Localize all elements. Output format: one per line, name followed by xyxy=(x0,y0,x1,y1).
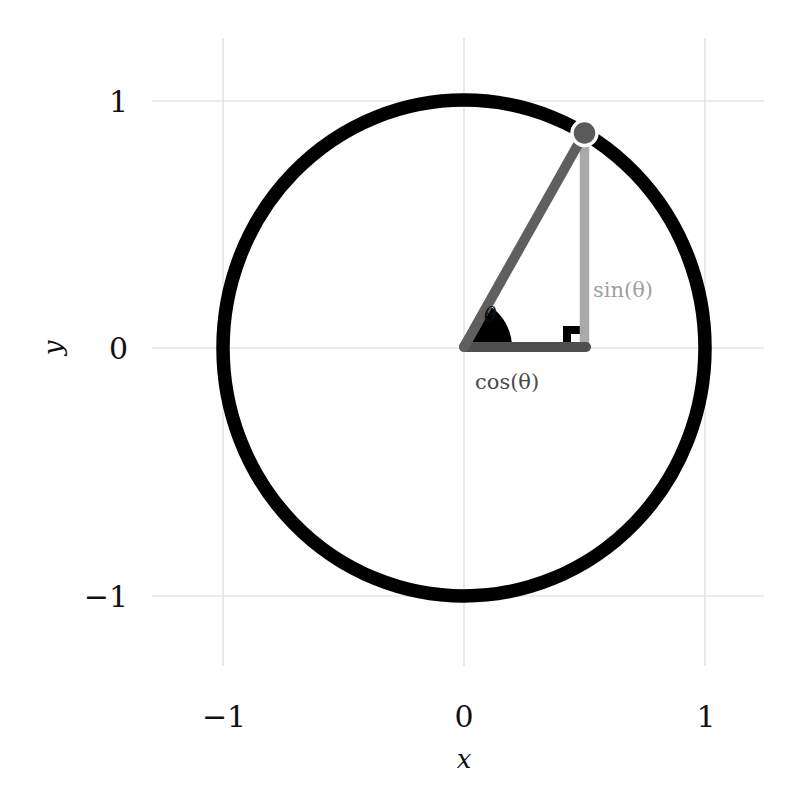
point-marker xyxy=(572,121,597,146)
cos-label: cos(θ) xyxy=(475,370,539,394)
hypotenuse xyxy=(464,133,585,347)
y-tick-1: 1 xyxy=(109,84,128,119)
x-tick-1: 1 xyxy=(696,699,715,734)
x-tick-0: 0 xyxy=(454,699,473,734)
y-tick-neg1: −1 xyxy=(84,579,128,614)
sin-label: sin(θ) xyxy=(593,278,653,302)
x-tick-neg1: −1 xyxy=(202,699,246,734)
unit-circle-figure: θ sin(θ) cos(θ) 1 0 −1 −1 0 1 x y xyxy=(0,0,797,807)
y-tick-0: 0 xyxy=(109,331,128,366)
grid xyxy=(152,38,764,666)
y-axis-label: y xyxy=(38,340,68,356)
theta-label: θ xyxy=(484,303,497,327)
x-axis-label: x xyxy=(457,744,472,774)
